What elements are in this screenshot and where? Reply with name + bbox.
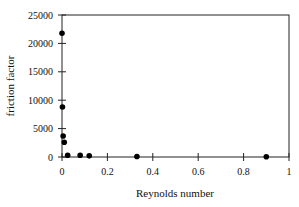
data-point <box>60 104 66 110</box>
data-point <box>60 133 66 139</box>
x-tick-label: 0.8 <box>237 166 250 177</box>
data-point <box>59 30 65 36</box>
plot-area: 00.20.40.60.81 0500010000150002000025000… <box>0 0 299 207</box>
data-point <box>77 152 83 158</box>
scatter-chart: 00.20.40.60.81 0500010000150002000025000… <box>0 0 299 207</box>
data-point <box>134 154 140 160</box>
y-tick-label: 0 <box>48 152 53 163</box>
x-tick-label: 0.4 <box>147 166 160 177</box>
y-tick-label: 25000 <box>28 10 53 21</box>
y-tick-label: 15000 <box>28 66 53 77</box>
x-tick-label: 1 <box>287 166 292 177</box>
plot-frame <box>62 15 289 157</box>
x-axis-label: Reynolds number <box>136 187 214 199</box>
y-tick-label: 5000 <box>33 123 53 134</box>
data-points <box>59 30 269 159</box>
data-point <box>61 139 67 145</box>
y-axis-label: friction factor <box>4 55 16 116</box>
data-point <box>86 153 92 159</box>
x-tick-label: 0.2 <box>101 166 114 177</box>
data-point <box>65 152 71 158</box>
data-point <box>264 154 270 160</box>
axes-box <box>62 15 289 157</box>
y-tick-label: 20000 <box>28 38 53 49</box>
x-tick-label: 0 <box>60 166 65 177</box>
y-tick-label: 10000 <box>28 95 53 106</box>
x-tick-label: 0.6 <box>192 166 205 177</box>
